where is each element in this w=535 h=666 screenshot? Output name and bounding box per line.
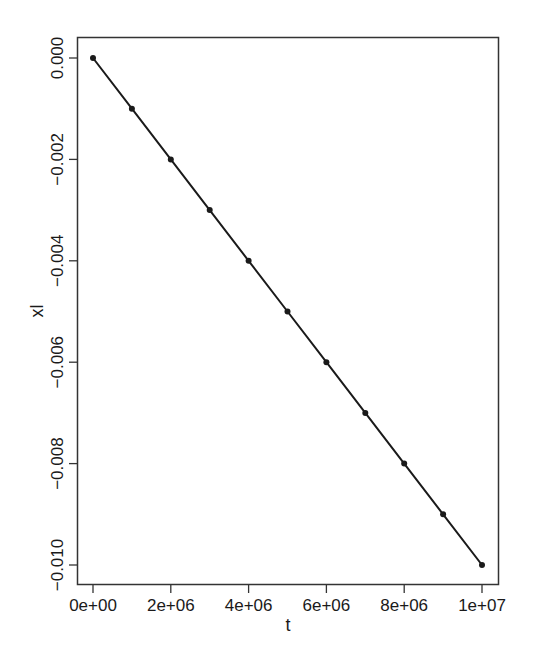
x-tick-label: 6e+06 [303,596,351,615]
data-point [168,156,174,162]
x-tick-label: 2e+06 [147,596,195,615]
data-point [246,258,252,264]
data-point [479,562,485,568]
data-point [323,359,329,365]
x-tick-label: 1e+07 [458,596,506,615]
y-tick-label: −0.010 [48,539,67,591]
y-axis-title: xl [27,305,47,318]
data-point [440,511,446,517]
y-tick-label: −0.002 [48,133,67,185]
data-point [362,410,368,416]
x-axis-title: t [285,615,290,635]
y-tick-label: 0.000 [48,37,67,80]
line-chart: 0e+002e+064e+066e+068e+061e+07 0.000−0.0… [0,0,535,666]
data-point [90,55,96,61]
x-axis: 0e+002e+064e+066e+068e+061e+07 [69,585,506,615]
y-tick-label: −0.004 [48,235,67,287]
x-tick-label: 4e+06 [225,596,273,615]
data-point [285,309,291,315]
data-point [207,207,213,213]
y-tick-label: −0.008 [48,437,67,489]
data-point [129,106,135,112]
y-tick-label: −0.006 [48,336,67,388]
data-point [401,461,407,467]
x-tick-label: 0e+00 [69,596,117,615]
x-tick-label: 8e+06 [380,596,428,615]
y-axis: 0.000−0.002−0.004−0.006−0.008−0.010 [48,37,77,592]
